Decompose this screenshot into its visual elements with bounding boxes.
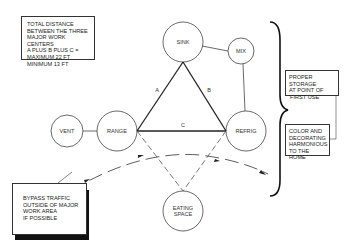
total-distance-note: TOTAL DISTANCE BETWEEN THE THREE MAJOR W… xyxy=(21,16,95,60)
sink-label: SINK xyxy=(176,39,189,45)
note-line: AT POINT OF xyxy=(289,87,336,94)
arrowhead-icon xyxy=(214,159,220,162)
refrig-label: REFRIG xyxy=(235,128,256,134)
note-line: IF POSSIBLE xyxy=(23,215,84,222)
note-line: TOTAL DISTANCE xyxy=(27,21,90,28)
bypass-traffic-note: BYPASS TRAFFIC OUTSIDE OF MAJOR WORK ARE… xyxy=(12,183,87,235)
note-line: 'FIRST USE' xyxy=(289,94,336,101)
note-line: DECORATING xyxy=(289,135,327,142)
eating-label-line: SPACE xyxy=(173,211,193,217)
mix-label: MIX xyxy=(236,48,246,54)
note-line: BETWEEN THE THREE xyxy=(27,28,90,35)
note-line: MAXIMUM 22 FT xyxy=(27,54,90,61)
edge-a xyxy=(137,62,183,131)
note-line: A PLUS B PLUS C = xyxy=(27,47,90,54)
mix-refrig-line xyxy=(243,64,245,111)
note-line: PROPER STORAGE xyxy=(289,74,336,87)
edge-b xyxy=(183,62,226,131)
range-eating-dashed xyxy=(137,131,183,191)
note-line: OUTSIDE OF MAJOR xyxy=(23,202,84,209)
note-line: WORK AREA xyxy=(23,208,84,215)
color-decorating-note: COLOR AND DECORATING HARMONIOUS TO THE H… xyxy=(285,124,330,156)
vent-label: VENT xyxy=(60,128,75,134)
bypass-pointer-line xyxy=(58,172,72,183)
right-brace xyxy=(270,22,288,196)
note-line: TO THE HOME xyxy=(289,148,327,161)
proper-storage-note: PROPER STORAGE AT POINT OF 'FIRST USE' xyxy=(285,70,339,96)
note-line: MINIMUM 13 FT xyxy=(27,61,90,68)
note-line: BYPASS TRAFFIC xyxy=(23,195,84,202)
note-line: HARMONIOUS xyxy=(289,141,327,148)
edge-c-label: C xyxy=(181,122,185,128)
range-label: RANGE xyxy=(107,128,127,134)
note-line: COLOR AND xyxy=(289,128,327,135)
eating-space-label: EATING SPACE xyxy=(173,205,193,218)
note-line: MAJOR WORK CENTERS xyxy=(27,34,90,47)
sink-mix-line xyxy=(202,46,228,51)
arrowhead-icon xyxy=(138,155,144,158)
edge-b-label: B xyxy=(207,87,211,93)
edge-a-label: A xyxy=(155,87,159,93)
traffic-arrow-path xyxy=(72,154,268,190)
